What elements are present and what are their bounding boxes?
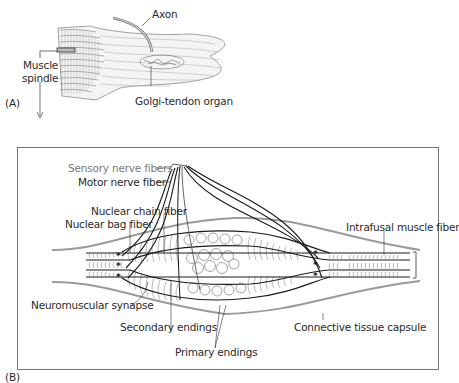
label-motor-nerve-fiber: Motor nerve fiber [78,177,166,188]
svg-text:*: * [116,251,121,261]
label-sensory-nerve-fibers: Sensory nerve fibers [68,163,173,174]
label-golgi-tendon-organ: Golgi-tendon organ [135,96,233,107]
label-neuromuscular-synapse: Neuromuscular synapse [31,300,153,311]
svg-text:*: * [313,271,318,281]
label-nuclear-chain-fiber: Nuclear chain fiber [91,206,187,217]
label-intrafusal-muscle-fiber: Intrafusal muscle fiber [346,222,459,233]
intrafusal-fiber-bundle [86,231,416,302]
label-muscle-spindle-2: spindle [22,73,58,84]
svg-text:*: * [116,272,121,282]
label-axon: Axon [152,9,177,20]
label-primary-endings: Primary endings [175,347,257,358]
label-connective-tissue-capsule: Connective tissue capsule [294,322,426,333]
label-secondary-endings: Secondary endings [120,322,217,333]
panel-b-tag: (B) [5,372,20,383]
svg-text:*: * [116,261,121,271]
panel-a-tag: (A) [5,98,20,109]
label-muscle-spindle-1: Muscle [23,60,58,71]
label-nuclear-bag-fiber: Nuclear bag fiber [65,219,153,230]
spindle-marker [57,48,75,52]
